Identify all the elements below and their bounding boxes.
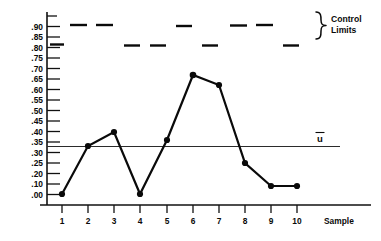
y-tick-label: .90 <box>31 22 43 32</box>
x-axis-title: Sample <box>324 216 354 226</box>
y-tick-16: .00 <box>31 190 60 200</box>
y-tick-12: .30 <box>31 148 60 158</box>
data-point-8 <box>242 160 248 166</box>
x-tick-label: 6 <box>191 216 196 226</box>
data-point-6 <box>190 72 197 79</box>
y-tick-label: .40 <box>31 127 43 137</box>
y-tick-label: .25 <box>31 158 43 168</box>
y-tick-label: .35 <box>31 137 43 147</box>
control-limit-dashes <box>50 25 299 46</box>
data-point-10 <box>294 183 300 189</box>
x-tick-label: 7 <box>217 216 222 226</box>
u-series-line <box>62 75 297 194</box>
y-tick-label: .55 <box>31 95 43 105</box>
x-tick-label: 1 <box>60 216 65 226</box>
y-tick-4: .70 <box>31 64 60 74</box>
control-limits-label-line2: Limits <box>331 25 357 35</box>
x-axis-ticks: 1 2 3 4 5 6 7 <box>60 205 354 226</box>
y-tick-label: .20 <box>31 169 43 179</box>
x-tick-6: 6 <box>191 205 196 226</box>
control-limits-annotation: Control Limits <box>316 12 362 39</box>
x-tick-10: 10 <box>292 205 302 226</box>
y-tick-15: .10 <box>31 179 60 189</box>
data-point-9 <box>268 183 274 189</box>
x-tick-1: 1 <box>60 205 65 226</box>
x-tick-7: 7 <box>217 205 222 226</box>
ubar-label-text: u <box>317 133 323 144</box>
y-tick-7: .55 <box>31 95 60 105</box>
y-tick-label: .65 <box>31 74 43 84</box>
y-tick-label: .30 <box>31 148 43 158</box>
x-tick-2: 2 <box>86 205 91 226</box>
y-tick-label: .60 <box>31 85 43 95</box>
data-point-7 <box>216 82 222 88</box>
y-tick-label: .70 <box>31 64 43 74</box>
y-tick-0: .90 <box>31 22 60 32</box>
y-tick-10: .40 <box>31 127 60 137</box>
x-tick-8: 8 <box>243 205 248 226</box>
x-tick-label: 4 <box>138 216 143 226</box>
x-tick-label: 10 <box>292 216 302 226</box>
y-tick-11: .35 <box>31 137 60 147</box>
ubar-annotation: u <box>316 133 325 145</box>
y-tick-label: .10 <box>31 179 43 189</box>
x-tick-label: 5 <box>165 216 170 226</box>
x-tick-9: 9 <box>269 205 274 226</box>
data-point-2 <box>85 143 91 149</box>
y-tick-14: .20 <box>31 169 60 179</box>
data-point-1 <box>59 191 65 197</box>
y-tick-6: .60 <box>31 85 60 95</box>
y-tick-label: .85 <box>31 32 43 42</box>
x-tick-label: 9 <box>269 216 274 226</box>
data-point-4 <box>137 191 143 197</box>
y-tick-13: .25 <box>31 158 60 168</box>
y-tick-label: .80 <box>31 43 43 53</box>
y-tick-1: .85 <box>31 32 60 42</box>
y-tick-label: .45 <box>31 116 43 126</box>
control-chart-figure: .90 .85 .80 .75 .70 .65 <box>0 0 381 241</box>
axes-group <box>40 12 371 205</box>
y-tick-label: .00 <box>31 190 43 200</box>
x-tick-4: 4 <box>138 205 143 226</box>
x-tick-label: 2 <box>86 216 91 226</box>
y-tick-label: .75 <box>31 53 43 63</box>
y-tick-3: .75 <box>31 53 60 63</box>
chart-canvas: .90 .85 .80 .75 .70 .65 <box>0 0 381 241</box>
y-tick-label: .50 <box>31 106 43 116</box>
curly-brace-icon <box>316 12 326 39</box>
data-point-5 <box>164 137 170 143</box>
x-tick-label: 8 <box>243 216 248 226</box>
x-tick-5: 5 <box>165 205 170 226</box>
y-tick-8: .50 <box>31 106 60 116</box>
x-tick-3: 3 <box>112 205 117 226</box>
y-tick-5: .65 <box>31 74 60 84</box>
control-limits-label-line1: Control <box>331 14 362 24</box>
y-tick-9: .45 <box>31 116 60 126</box>
data-point-3 <box>111 129 117 135</box>
x-tick-label: 3 <box>112 216 117 226</box>
